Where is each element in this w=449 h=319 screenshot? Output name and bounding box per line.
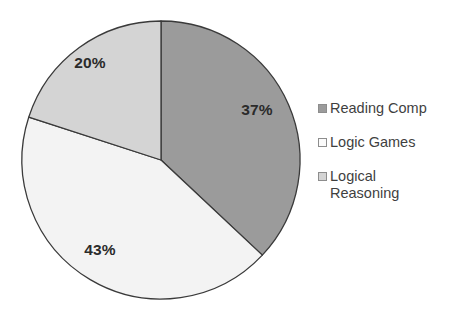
legend-item-label: Logical Reasoning — [330, 168, 399, 202]
pie-label-reading-comp: 37% — [241, 101, 273, 118]
pie-svg: 37% 43% 20% — [0, 0, 319, 319]
legend-marker-icon — [318, 138, 327, 147]
legend-item-reading-comp[interactable]: Reading Comp — [318, 100, 449, 117]
pie-label-logical-reasoning: 20% — [74, 54, 106, 71]
pie-slices — [22, 21, 300, 299]
legend-item-label: Reading Comp — [330, 100, 427, 117]
pie-label-logic-games: 43% — [84, 241, 116, 258]
chart-legend: Reading Comp Logic Games Logical Reasoni… — [318, 100, 449, 219]
pie-chart-figure: 37% 43% 20% Reading Comp Logic Games Log… — [0, 0, 449, 319]
pie-plot-area: 37% 43% 20% — [0, 0, 319, 319]
legend-item-label: Logic Games — [330, 134, 415, 151]
legend-item-logical-reasoning[interactable]: Logical Reasoning — [318, 168, 449, 202]
legend-marker-icon — [318, 172, 327, 181]
legend-marker-icon — [318, 104, 327, 113]
legend-item-logic-games[interactable]: Logic Games — [318, 134, 449, 151]
